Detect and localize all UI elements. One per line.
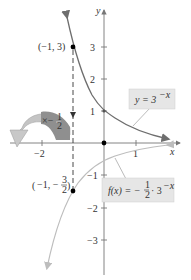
point-neg1-neg3half: [71, 189, 76, 194]
svg-text:−1, −: −1, −: [37, 179, 59, 190]
svg-text:2: 2: [145, 189, 150, 200]
point-label-top: (−1, 3): [38, 41, 65, 53]
transform-arrow: ×− 1 2: [10, 111, 70, 147]
tick-y-neg3: −3: [87, 235, 98, 246]
graph-canvas: 3 2 1 −1 −2 −3 −2 1 y x ×− 1 2 (−1, 3) (…: [0, 0, 191, 280]
tick-x-neg2: −2: [34, 148, 45, 159]
transform-times: ×−: [42, 115, 54, 126]
point-origin: [102, 141, 107, 146]
transform-den: 2: [57, 120, 62, 131]
tick-y-2: 2: [90, 74, 95, 85]
svg-text:): ): [67, 180, 70, 192]
svg-text:−x: −x: [163, 180, 175, 191]
svg-text:f(x) = −: f(x) = −: [108, 185, 140, 197]
curve-y-3-neg-x: [67, 17, 168, 139]
svg-text:(: (: [32, 180, 36, 192]
dashed-arrowhead-icon: [70, 112, 76, 118]
tick-y-3: 3: [90, 42, 95, 53]
tick-y-1: 1: [90, 106, 95, 117]
point-label-bottom: ( −1, − 3 2 ): [32, 174, 70, 195]
point-neg1-3: [71, 45, 76, 50]
callout-f-x: f(x) = − 1 2 · 3 −x: [102, 158, 175, 202]
tick-y-neg2: −2: [87, 203, 98, 214]
curve-f-x: [47, 145, 168, 268]
y-axis-label: y: [95, 5, 101, 16]
svg-text:· 3: · 3: [151, 185, 162, 196]
svg-text:−x: −x: [159, 89, 171, 100]
svg-text:y = 3: y = 3: [134, 94, 156, 105]
callout-y-3-neg-x: y = 3 −x: [129, 89, 175, 126]
point-0-1: [102, 109, 105, 112]
x-axis-label: x: [169, 146, 175, 157]
